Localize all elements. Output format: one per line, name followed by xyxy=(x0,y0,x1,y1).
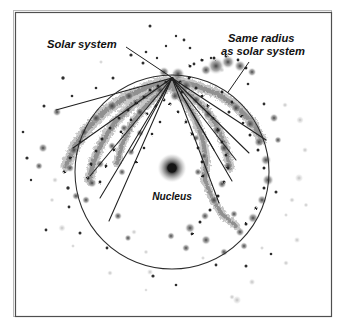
nucleus-label: Nucleus xyxy=(152,191,192,202)
same-radius-label-line1: Same radius xyxy=(228,32,295,44)
solar-system-label: Solar system xyxy=(47,38,117,50)
same-radius-label-line2: as solar system xyxy=(221,45,305,57)
galaxy-figure: Solar system Same radius as solar system… xyxy=(0,0,350,334)
galactic-nucleus xyxy=(157,153,187,183)
